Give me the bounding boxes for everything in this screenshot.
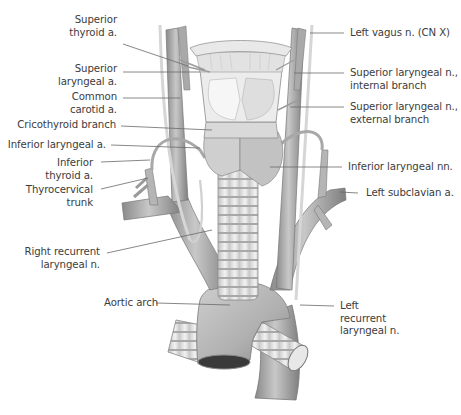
label-aortic-arch: Aortic arch [104, 297, 158, 310]
label-cricothyroid-branch: Cricothyroid branch [17, 119, 116, 132]
label-superior-laryngeal-n-internal: Superior laryngeal n.,internal branch [350, 67, 458, 92]
cricoid-cartilage [204, 122, 278, 138]
right-common-carotid-a [166, 26, 190, 202]
label-right-recurrent-laryngeal-n: Right recurrentlaryngeal n. [24, 246, 100, 271]
label-left-vagus-n: Left vagus n. (CN X) [350, 27, 450, 40]
label-left-subclavian-a: Left subclavian a. [366, 187, 454, 200]
label-inferior-laryngeal-nn: Inferior laryngeal nn. [348, 161, 453, 174]
label-superior-laryngeal-a: Superiorlaryngeal a. [58, 63, 117, 88]
label-superior-thyroid-a: Superiorthyroid a. [69, 14, 117, 39]
label-left-recurrent-laryngeal-n: Leftrecurrentlaryngeal n. [340, 300, 399, 338]
anatomy-figure: Superiorthyroid a. Superiorlaryngeal a. … [0, 0, 461, 415]
label-thyrocervical-trunk: Thyrocervicaltrunk [26, 184, 93, 209]
trachea [218, 160, 258, 300]
label-common-carotid-a: Commoncarotid a. [70, 91, 117, 116]
label-superior-laryngeal-n-external: Superior laryngeal n.,external branch [350, 101, 458, 126]
thyrohyoid-membrane [196, 52, 286, 72]
thyroid-cartilage [200, 70, 282, 122]
label-inferior-thyroid-a: Inferiorthyroid a. [45, 157, 93, 182]
label-inferior-laryngeal-a: Inferior laryngeal a. [8, 139, 106, 152]
